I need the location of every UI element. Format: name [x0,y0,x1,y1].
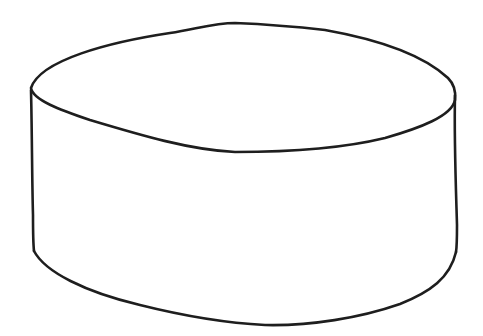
cylinder-left-side [31,90,34,251]
cylinder-sketch [0,0,483,336]
cylinder-bottom-curve [34,251,456,325]
cylinder-top-ellipse [31,23,455,152]
cylinder-right-side [455,95,457,252]
